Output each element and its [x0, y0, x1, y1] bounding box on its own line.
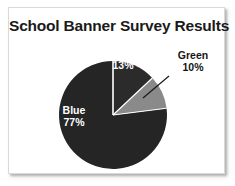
slice-label-green-value: 10%: [167, 62, 219, 74]
slice-label-red-name: Red: [101, 48, 145, 60]
slice-label-blue-value: 77%: [51, 117, 97, 129]
slice-label-red-value: 13%: [101, 60, 145, 72]
pie-chart-screenshot: School Banner Survey Results Red 13%: [0, 0, 235, 186]
slice-label-red: Red 13%: [101, 48, 145, 72]
chart-card: School Banner Survey Results Red 13%: [8, 7, 225, 174]
slice-label-blue-name: Blue: [51, 105, 97, 117]
slice-label-blue: Blue 77%: [51, 105, 97, 129]
pie-chart-area: Red 13% Green 10% Blue 77%: [9, 8, 226, 175]
pie-chart-svg: [9, 8, 226, 175]
slice-label-green-name: Green: [167, 50, 219, 62]
slice-label-green: Green 10%: [167, 50, 219, 74]
